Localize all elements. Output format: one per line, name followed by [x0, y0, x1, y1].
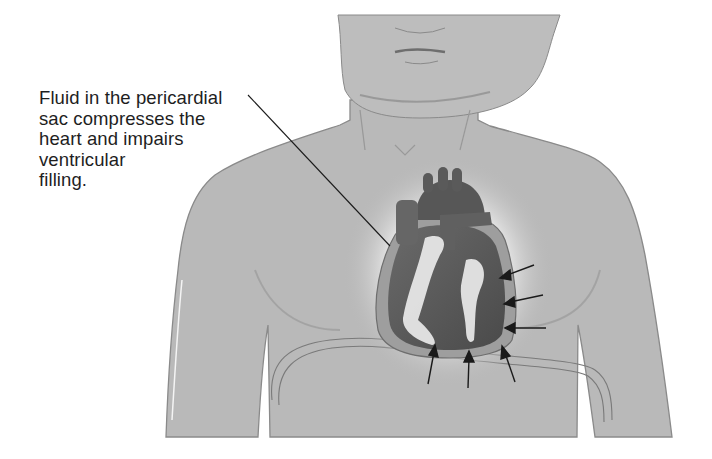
callout-label: Fluid in the pericardial sac compresses … — [39, 88, 269, 191]
callout-line-1: Fluid in the pericardial — [39, 88, 269, 109]
callout-line-3: heart and impairs — [39, 129, 269, 150]
tamponade-illustration — [0, 0, 712, 459]
callout-line-4: ventricular — [39, 150, 269, 171]
callout-line-5: filling. — [39, 170, 269, 191]
callout-line-2: sac compresses the — [39, 109, 269, 130]
